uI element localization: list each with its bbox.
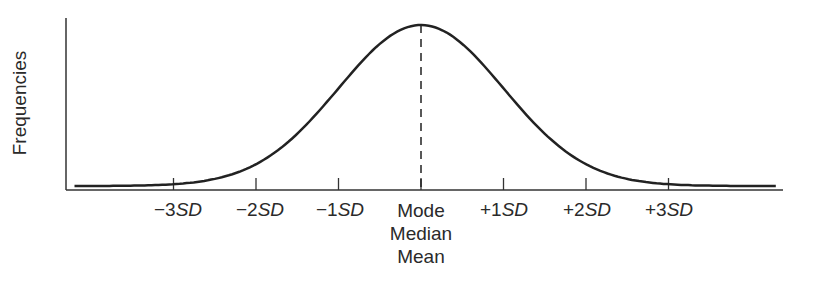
y-axis-label: Frequencies — [9, 51, 31, 156]
normal-curve — [75, 25, 776, 186]
tick-label-minus-2sd: −2SD — [236, 199, 284, 221]
tick-label-plus-2sd: +2SD — [563, 199, 611, 221]
tick-label-plus-1sd: +1SD — [480, 199, 528, 221]
tick-label-center: Mode Median Mean — [390, 199, 452, 268]
label-mean: Mean — [390, 245, 452, 268]
tick-label-plus-3sd: +3SD — [645, 199, 693, 221]
tick-label-minus-3sd: −3SD — [154, 199, 202, 221]
label-median: Median — [390, 222, 452, 245]
tick-label-minus-1sd: −1SD — [316, 199, 364, 221]
label-mode: Mode — [390, 199, 452, 222]
